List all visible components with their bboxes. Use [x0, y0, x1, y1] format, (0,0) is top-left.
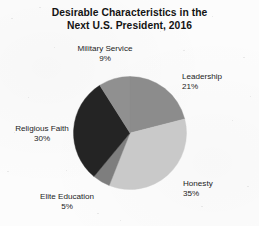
- pie-label-military-service-name: Military Service: [62, 44, 148, 54]
- pie-label-military-service: Military Service 9%: [62, 44, 148, 64]
- pie-chart: [73, 76, 187, 190]
- pie-label-leadership-name: Leadership: [182, 72, 252, 82]
- chart-title: Desirable Characteristics in the Next U.…: [0, 6, 259, 32]
- pie-label-honesty-name: Honesty: [183, 179, 247, 189]
- pie-label-religious-faith-name: Religious Faith: [3, 124, 81, 134]
- scan-speck: [54, 47, 55, 48]
- pie-slice-group: [74, 77, 187, 190]
- pie-label-honesty-value: 35%: [183, 189, 247, 199]
- pie-label-elite-education-name: Elite Education: [20, 192, 114, 202]
- pie-label-leadership: Leadership 21%: [182, 72, 252, 92]
- scan-speck: [66, 170, 67, 171]
- pie-label-elite-education-value: 5%: [20, 202, 114, 212]
- pie-label-military-service-value: 9%: [62, 54, 148, 64]
- scan-speck: [97, 213, 99, 214]
- scan-speck: [201, 206, 203, 207]
- chart-canvas: Desirable Characteristics in the Next U.…: [0, 0, 259, 226]
- chart-title-line-2: Next U.S. President, 2016: [0, 19, 259, 32]
- scan-speck: [247, 186, 249, 187]
- pie-svg: [73, 76, 187, 190]
- pie-label-leadership-value: 21%: [182, 82, 252, 92]
- scan-speck: [250, 96, 251, 97]
- pie-label-elite-education: Elite Education 5%: [20, 192, 114, 212]
- scan-speck: [7, 171, 9, 172]
- pie-label-religious-faith: Religious Faith 30%: [3, 124, 81, 144]
- pie-label-religious-faith-value: 30%: [3, 134, 81, 144]
- chart-title-line-1: Desirable Characteristics in the: [0, 6, 259, 19]
- pie-label-honesty: Honesty 35%: [183, 179, 247, 199]
- scan-speck: [183, 50, 185, 51]
- scan-speck: [243, 57, 245, 58]
- scan-speck: [28, 97, 29, 98]
- scan-speck: [120, 220, 121, 221]
- scan-speck: [232, 120, 233, 121]
